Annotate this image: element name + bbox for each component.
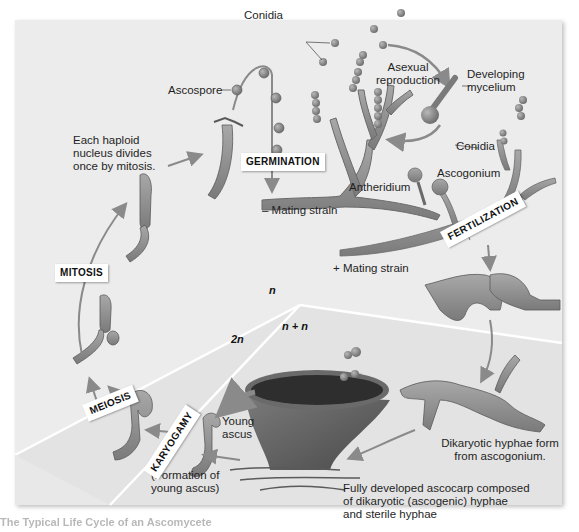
label-young-ascus-line1: Young <box>222 415 254 428</box>
ploidy-haploid: n <box>269 284 276 296</box>
label-haploid-line3: once by mitosis. <box>73 160 155 173</box>
label-haploid-line1: Each haploid <box>73 134 155 147</box>
label-dikaryotic-line2: from ascogonium. <box>420 450 579 463</box>
label-ascocarp-line1: Fully developed ascocarp composed <box>343 482 530 495</box>
label-asexual-line2: reproduction <box>372 74 444 87</box>
label-asexual-reproduction: Asexual reproduction <box>372 61 444 87</box>
label-minus-mating-strain: – Mating strain <box>262 204 337 217</box>
label-formation-line2: young ascus) <box>151 482 219 495</box>
label-ascocarp-line2: of dikaryotic (ascogenic) hyphae <box>343 495 530 508</box>
label-dikaryotic-hyphae: Dikaryotic hyphae form from ascogonium. <box>420 437 579 463</box>
label-developing-mycelium: Developing mycelium <box>467 68 525 94</box>
tag-germination: GERMINATION <box>241 153 325 171</box>
ascomycete-life-cycle-diagram: Conidia Asexual reproduction Developing … <box>0 0 579 532</box>
label-developing-line2: mycelium <box>467 81 525 94</box>
label-conidia-top: Conidia <box>244 9 283 22</box>
label-young-ascus-line2: ascus <box>222 428 254 441</box>
label-haploid-mitosis: Each haploid nucleus divides once by mit… <box>73 134 155 173</box>
label-conidia-right: Conidia <box>456 140 495 153</box>
label-developing-line1: Developing <box>467 68 525 81</box>
label-young-ascus: Young ascus <box>222 415 254 441</box>
ploidy-dikaryotic: n + n <box>282 320 308 332</box>
label-ascocarp: Fully developed ascocarp composed of dik… <box>343 482 530 521</box>
tag-mitosis: MITOSIS <box>55 264 108 282</box>
label-plus-mating-strain: + Mating strain <box>333 262 409 275</box>
label-ascospore: Ascospore <box>168 84 222 97</box>
ploidy-diploid: 2n <box>231 333 244 345</box>
developing-mycelium-spore <box>421 106 439 124</box>
label-ascogonium: Ascogonium <box>437 167 500 180</box>
figure-caption: The Typical Life Cycle of an Ascomycete <box>0 516 212 528</box>
label-asexual-line1: Asexual <box>372 61 444 74</box>
label-haploid-line2: nucleus divides <box>73 147 155 160</box>
label-ascocarp-line3: and sterile hyphae <box>343 508 530 521</box>
label-antheridium: Antheridium <box>349 181 410 194</box>
label-dikaryotic-line1: Dikaryotic hyphae form <box>420 437 579 450</box>
